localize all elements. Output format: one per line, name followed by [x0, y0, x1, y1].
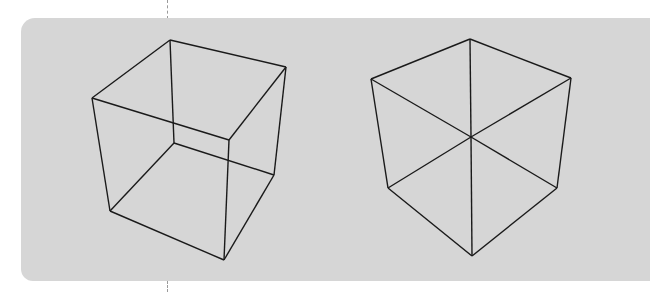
cube-edge [388, 137, 471, 188]
cube-edge [110, 211, 224, 260]
cube-edge [229, 67, 286, 140]
cubes-figure [0, 0, 658, 292]
cube-edge [471, 78, 571, 137]
cube-edge [371, 79, 471, 137]
cube-edge [224, 175, 274, 260]
cube-edge [471, 137, 472, 256]
wireframe-cube-right [371, 39, 571, 256]
cube-edge [371, 79, 388, 188]
cube-edge [371, 39, 470, 79]
cube-edge [471, 137, 557, 188]
cube-edge [557, 78, 571, 188]
cube-edge [274, 67, 286, 175]
cube-edge [92, 98, 110, 211]
cube-edge [174, 143, 274, 175]
wireframe-cube-left [92, 40, 286, 260]
cube-edge [92, 40, 170, 98]
cube-edge [92, 98, 229, 140]
cube-edge [110, 143, 174, 211]
cube-edge [170, 40, 174, 143]
cube-edge [224, 140, 229, 260]
cube-edge [472, 188, 557, 256]
cube-edge [470, 39, 571, 78]
cube-edge [388, 188, 472, 256]
cube-edge [170, 40, 286, 67]
cube-edge [470, 39, 471, 137]
